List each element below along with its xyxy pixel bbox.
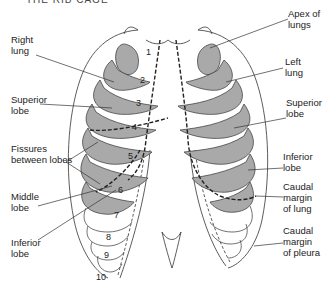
rib-number-10: 10	[96, 272, 106, 282]
label-left-lung: Left lung	[285, 56, 303, 78]
rib-number-2: 2	[140, 75, 145, 85]
rib-number-9: 9	[104, 250, 109, 260]
rib-number-4: 4	[132, 122, 137, 132]
label-middle-lobe: Middle lobe	[11, 191, 39, 213]
label-right-lung: Right lung	[11, 34, 33, 56]
rib-number-7: 7	[114, 210, 119, 220]
label-inferior-lobe-right: Inferior lobe	[283, 151, 313, 173]
rib-number-1: 1	[146, 47, 151, 57]
label-superior-lobe-left: Superior lobe	[11, 94, 47, 116]
label-caudal-margin-pleura: Caudal margin of pleura	[283, 225, 320, 258]
label-caudal-margin-lung: Caudal margin of lung	[283, 181, 313, 214]
rib-number-5: 5	[128, 151, 133, 161]
label-inferior-lobe-left: Inferior lobe	[11, 237, 41, 259]
rib-number-3: 3	[136, 98, 141, 108]
rib-number-6: 6	[118, 185, 123, 195]
rib-number-8: 8	[106, 232, 111, 242]
label-superior-lobe-right: Superior lobe	[286, 97, 322, 119]
label-apex: Apex of lungs	[288, 8, 320, 30]
label-fissures: Fissures between lobes	[11, 143, 72, 165]
